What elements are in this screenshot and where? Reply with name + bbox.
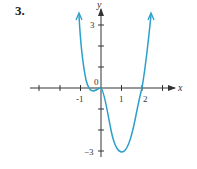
y-tick-label-neg3: −3 — [84, 147, 94, 157]
function-graph: y x 3 −3 0 -1 1 2 — [0, 0, 197, 169]
x-tick-label-neg1: -1 — [76, 94, 84, 104]
origin-label: 0 — [94, 77, 99, 87]
y-axis-label: y — [96, 0, 102, 10]
function-curve — [79, 15, 151, 152]
x-tick-label-1: 1 — [119, 94, 124, 104]
x-axis-label: x — [177, 82, 183, 93]
x-tick-label-2: 2 — [143, 94, 148, 104]
y-tick-label-3: 3 — [90, 20, 95, 30]
